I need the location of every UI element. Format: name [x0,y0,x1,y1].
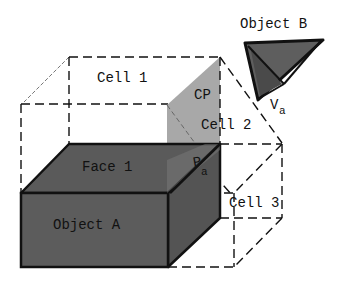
cell-2-label: Cell 2 [201,117,251,133]
cp-label: CP [194,87,211,103]
object-a-label: Object A [53,217,121,233]
va-subscript: a [279,105,286,117]
cell-1-label: Cell 1 [97,70,147,86]
pa-subscript: a [201,166,208,178]
diagram-canvas: Cell 1 CP Cell 2 Cell 3 Face 1 Object A … [0,0,342,281]
face-1-label: Face 1 [82,159,132,175]
va-label: V [270,97,279,113]
object-b-label: Object B [240,16,307,32]
cell-3-label: Cell 3 [229,195,279,211]
object-b [245,40,323,100]
